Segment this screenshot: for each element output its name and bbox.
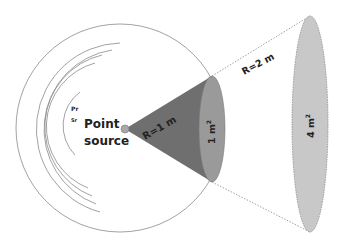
point-source-label-line1: Point [84,117,120,131]
r2-label: R=2 m [240,51,276,77]
small-label-sr: Sr [71,117,78,123]
area1-sup: 2 [205,120,212,124]
wavefront-arc-5 [63,92,80,155]
point-source-label-line2: source [84,134,129,148]
inverse-square-diagram: Pr Sr Point source R=1 m R=2 m 1 m2 4 m2 [0,0,344,251]
point-source-dot [121,125,129,133]
area2-sup: 2 [304,114,311,118]
small-label-pr: Pr [71,105,78,112]
